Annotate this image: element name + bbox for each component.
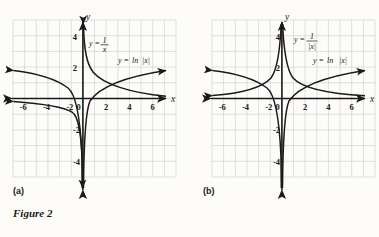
xtick-b-2: -2	[265, 102, 272, 112]
eq-b2-lhs: y =	[312, 56, 324, 65]
figure-caption: Figure 2	[13, 207, 52, 219]
eq-a-num: 1	[103, 36, 107, 45]
equation-label-log-b: y = ln |x|	[312, 56, 347, 65]
panel-a: -6 -4 -2 0 2 4 6 4 2 -2 -4 x y y = 1 x	[0, 0, 190, 200]
eq-a-lhs: y =	[88, 39, 100, 48]
panel-b: -6 -4 -2 0 2 4 6 4 2 -2 -4 x y y = 1 |x|	[190, 0, 379, 200]
equation-label-log-a: y = ln |x|	[117, 56, 150, 65]
xtick-a-0: -6	[20, 102, 27, 112]
y-axis-name-a: y	[85, 12, 91, 22]
xtick-a-1: -4	[43, 102, 51, 112]
eq-a-den: x	[102, 45, 107, 54]
figure-container: -6 -4 -2 0 2 4 6 4 2 -2 -4 x y y = 1 x	[0, 0, 379, 237]
xtick-a-6: 6	[151, 102, 155, 112]
eq-b2-arg: |x|	[339, 56, 347, 65]
xtick-a-2: -2	[66, 102, 73, 112]
xtick-a-3: 0	[76, 102, 80, 112]
xtick-a-5: 4	[127, 102, 132, 112]
eq-b-den: |x|	[308, 42, 316, 51]
xtick-b-5: 4	[326, 102, 331, 112]
ytick-a-2: -2	[73, 125, 80, 135]
eq-b-lhs: y =	[293, 35, 305, 44]
graph-b: -6 -4 -2 0 2 4 6 4 2 -2 -4 x y y = 1 |x|	[190, 0, 379, 200]
eq-a2-lhs: y =	[117, 56, 129, 65]
panel-label-b: (b)	[203, 186, 215, 196]
xtick-b-1: -4	[242, 102, 250, 112]
ytick-b-3: -4	[273, 157, 281, 167]
xtick-a-4: 2	[104, 102, 108, 112]
x-axis-name-b: x	[369, 94, 375, 104]
ytick-a-1: 2	[73, 63, 77, 73]
x-axis-name-a: x	[170, 94, 176, 104]
ytick-a-3: -4	[73, 157, 81, 167]
graph-a: -6 -4 -2 0 2 4 6 4 2 -2 -4 x y y = 1 x	[0, 0, 190, 200]
eq-b2-fn: ln	[327, 56, 333, 65]
eq-a2-arg: |x|	[142, 56, 150, 65]
y-axis-name-b: y	[284, 12, 290, 22]
eq-a2-fn: ln	[132, 56, 138, 65]
ytick-b-2: -2	[273, 125, 280, 135]
ytick-b-1: 2	[276, 63, 280, 73]
xtick-b-0: -6	[219, 102, 226, 112]
xtick-b-3: 0	[275, 102, 279, 112]
xtick-b-4: 2	[303, 102, 307, 112]
xtick-b-6: 6	[350, 102, 354, 112]
eq-b-num: 1	[310, 32, 314, 41]
panel-label-a: (a)	[13, 186, 24, 196]
ytick-a-0: 4	[73, 32, 78, 42]
curve-log-right-b	[283, 71, 366, 189]
curve-log-right	[84, 71, 167, 189]
